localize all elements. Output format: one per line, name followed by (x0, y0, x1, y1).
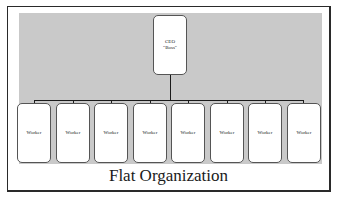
worker-label: Worker (181, 130, 196, 136)
ceo-subtitle: "Boss" (163, 45, 177, 51)
worker-node: Worker (171, 103, 205, 163)
worker-node: Worker (17, 103, 51, 163)
worker-label: Worker (143, 130, 158, 136)
ceo-vertical-connector (170, 75, 171, 100)
horizontal-connector (34, 100, 304, 101)
worker-label: Worker (104, 130, 119, 136)
worker-node: Worker (210, 103, 244, 163)
worker-node: Worker (56, 103, 90, 163)
worker-node: Worker (133, 103, 167, 163)
worker-label: Worker (66, 130, 81, 136)
worker-label: Worker (258, 130, 273, 136)
worker-node: Worker (94, 103, 128, 163)
worker-label: Worker (297, 130, 312, 136)
worker-label: Worker (27, 130, 42, 136)
ceo-node: CEO "Boss" (153, 15, 187, 75)
diagram-title: Flat Organization (0, 166, 337, 186)
worker-node: Worker (287, 103, 321, 163)
worker-label: Worker (220, 130, 235, 136)
worker-node: Worker (248, 103, 282, 163)
